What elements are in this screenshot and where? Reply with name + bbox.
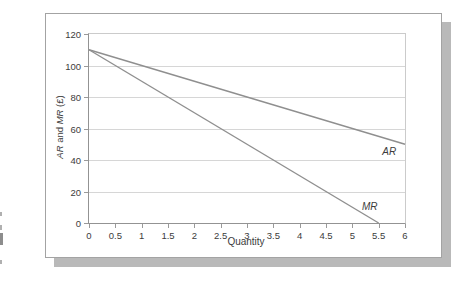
y-tick-label: 60 (53, 124, 81, 135)
y-tick-label: 120 (53, 29, 81, 40)
y-axis-tick (84, 192, 88, 193)
y-axis-tick (84, 129, 88, 130)
x-axis-tick (326, 224, 327, 228)
chart-plot-area: 00.511.522.533.544.555.56020406080100120… (88, 33, 406, 224)
y-axis-tick (84, 34, 88, 35)
x-axis-tick (221, 224, 222, 228)
series-line-mr (89, 50, 379, 223)
x-axis-tick (194, 224, 195, 228)
x-axis-tick (142, 224, 143, 228)
page-edge-text-fragment (0, 225, 2, 230)
x-axis-label: Quantity (88, 236, 404, 247)
y-axis-tick (84, 97, 88, 98)
y-axis-label-part: MR (54, 110, 65, 125)
x-axis-tick (247, 224, 248, 228)
y-tick-label: 0 (53, 218, 81, 229)
series-label-ar: AR (382, 145, 396, 156)
series-lines (89, 34, 405, 223)
y-tick-label: 20 (53, 187, 81, 198)
page-edge-text-fragment (0, 260, 2, 264)
x-axis-tick (405, 224, 406, 228)
y-axis-tick (84, 160, 88, 161)
y-axis-tick (84, 223, 88, 224)
series-line-ar (89, 50, 405, 145)
page-edge-text-fragment (0, 212, 2, 216)
x-axis-tick (115, 224, 116, 228)
y-tick-label: 80 (53, 92, 81, 103)
x-axis-tick (168, 224, 169, 228)
y-tick-label: 40 (53, 155, 81, 166)
series-label-mr: MR (362, 200, 378, 211)
figure-box: AR and MR (£) 00.511.522.533.544.555.560… (45, 13, 442, 258)
x-axis-tick (379, 224, 380, 228)
x-axis-tick (352, 224, 353, 228)
x-axis-tick (300, 224, 301, 228)
x-axis-tick (273, 224, 274, 228)
page-edge-text-fragment (0, 233, 3, 245)
x-axis-tick (89, 224, 90, 228)
y-axis-tick (84, 66, 88, 67)
y-tick-label: 100 (53, 61, 81, 72)
